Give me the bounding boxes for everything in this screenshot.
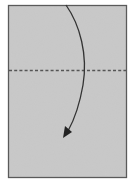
paper-texture [9,6,126,177]
fold-diagram [0,0,135,188]
